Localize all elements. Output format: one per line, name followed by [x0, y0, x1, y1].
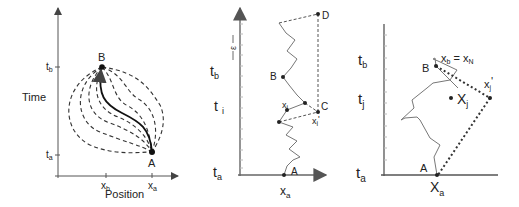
point-c-label: C [321, 101, 328, 112]
tick-tj: tj [358, 90, 364, 110]
x-axis-label: Position [105, 188, 144, 200]
point-b-label: B [98, 51, 105, 63]
point-b-dot [434, 64, 438, 68]
point-a-dot [282, 173, 286, 177]
discretized-path [401, 58, 457, 175]
point-a-dot [435, 173, 439, 177]
point-d-dot [316, 12, 320, 16]
xj-label: Xj [457, 91, 468, 109]
epsilon-label: ε [228, 46, 238, 50]
tick-tb: tb [358, 51, 367, 70]
point-a-dot [149, 149, 155, 155]
tick-ti: ti [214, 98, 224, 116]
xi-prime-label: xi' [312, 114, 320, 127]
tick-xa: xa [148, 180, 157, 192]
panel-2-time-sliced-path: ε D B C A xi xi' tb ti ta xa [210, 8, 329, 200]
varied-endpoint-path [436, 66, 490, 175]
tick-xa: xa [280, 184, 291, 200]
xi-label: xi [282, 100, 289, 111]
point-b-label: B [422, 62, 429, 74]
classical-path [100, 70, 152, 152]
point-b-dot [99, 64, 105, 70]
point-b-dot [281, 75, 285, 79]
node-lower-dot [277, 120, 281, 124]
y-axis-label: Time [22, 91, 46, 103]
tick-xb: xb [101, 180, 110, 192]
point-d-label: D [322, 10, 329, 21]
point-b-label: B [270, 71, 277, 82]
panel-3-endpoint-variation: B A xb = xN Xj xj' tb tj ta Xa [356, 24, 498, 198]
tick-tb: tb [210, 63, 219, 81]
point-a-label: A [420, 162, 428, 174]
panel-1-path-bundle: B A Time Position tb ta xb xa [22, 8, 178, 200]
tick-ta: ta [46, 149, 53, 161]
tick-xa: Xa [430, 179, 444, 198]
point-a-label: A [291, 166, 298, 177]
xj-prime-label: xj' [484, 75, 493, 92]
discretized-path [279, 23, 305, 175]
tick-ta: ta [356, 164, 366, 184]
xb-equals-xn-label: xb = xN [441, 52, 474, 65]
tick-ta: ta [213, 164, 222, 182]
point-a-label: A [148, 157, 156, 169]
node-upper-dot [303, 101, 307, 105]
tick-tb: tb [46, 61, 53, 73]
point-xj-prime-dot [488, 96, 492, 100]
path-integral-diagram: B A Time Position tb ta xb xa ε [0, 0, 519, 207]
point-xj-dot [449, 96, 453, 100]
